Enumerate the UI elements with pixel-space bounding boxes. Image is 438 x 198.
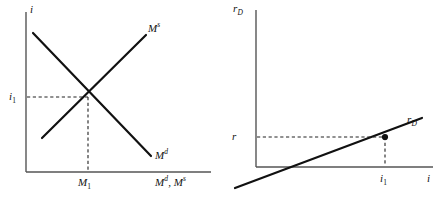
deposit-rate-plot [219, 0, 438, 198]
panel-deposit-rate: rD r i1 rD i [219, 0, 438, 198]
x-axis-label: i [427, 173, 430, 184]
x-tick-label-m1: M1 [78, 177, 91, 188]
deposit-rate-label-sub: D [411, 119, 417, 128]
x-axis-label: Md, Ms [155, 177, 186, 188]
figure-root: i i1 M1 Ms Md Md, Ms rD [0, 0, 438, 198]
money-demand-curve [33, 33, 151, 156]
deposit-rate-curve [235, 118, 422, 188]
y-tick-label-rd1: r [232, 131, 236, 142]
y-axis-label-sub: D [237, 8, 243, 17]
y-tick-sub: 1 [12, 96, 16, 105]
money-market-plot [0, 0, 219, 198]
y-axis-label: rD [233, 3, 243, 14]
y-axis-label: i [30, 4, 33, 15]
y-tick-label-i1: i1 [9, 91, 16, 102]
money-supply-label-sup: s [157, 20, 160, 29]
money-supply-label: Ms [148, 23, 160, 34]
money-demand-label: Md [155, 150, 168, 161]
x-axis-label-sup-s: s [183, 174, 186, 183]
x-axis-label-m2: M [174, 176, 183, 188]
x-tick-sub: 1 [87, 182, 91, 191]
deposit-rate-label: rD [407, 114, 417, 125]
y-tick-base: r [232, 130, 236, 142]
x-tick-base: M [78, 176, 87, 188]
x-axis-label-m1: M [155, 176, 164, 188]
panel-money-market: i i1 M1 Ms Md Md, Ms [0, 0, 219, 198]
x-tick-sub: 1 [383, 178, 387, 187]
money-demand-label-base: M [155, 149, 164, 161]
money-supply-curve [42, 35, 146, 138]
x-tick-label-i1: i1 [380, 173, 387, 184]
money-demand-label-sup: d [164, 147, 168, 156]
equilibrium-point-marker [382, 134, 388, 140]
money-supply-label-base: M [148, 22, 157, 34]
